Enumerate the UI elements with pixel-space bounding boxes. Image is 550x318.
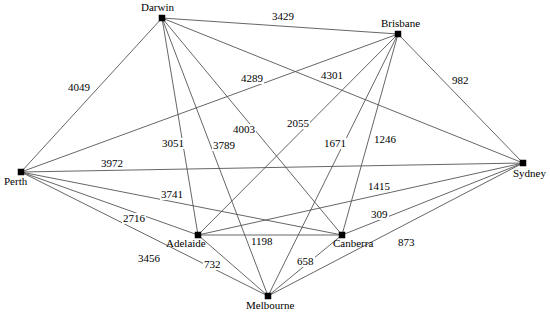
- edge-weight-label: 3972: [100, 158, 124, 169]
- graph-node-melbourne[interactable]: [265, 293, 271, 299]
- edge-weight-label: 658: [296, 256, 315, 267]
- graph-edge: [21, 172, 198, 235]
- edge-weight-label: 1246: [373, 134, 397, 145]
- nodes-layer: [18, 15, 526, 299]
- graph-node-perth[interactable]: [18, 169, 24, 175]
- graph-canvas: 3429404942894003305137899824301205516711…: [0, 0, 550, 318]
- graph-svg: [0, 0, 550, 318]
- graph-edge: [198, 34, 398, 235]
- edges-layer: [21, 18, 523, 296]
- edge-weight-label: 1198: [250, 236, 274, 247]
- edge-weight-label: 732: [203, 259, 222, 270]
- graph-edge: [162, 18, 268, 296]
- graph-edge: [21, 172, 342, 235]
- edge-weight-label: 1671: [323, 138, 347, 149]
- graph-edge: [162, 18, 198, 235]
- graph-edge: [21, 18, 162, 172]
- edge-weight-label: 309: [370, 209, 389, 220]
- graph-node-canberra[interactable]: [339, 232, 345, 238]
- edge-weight-label: 982: [451, 75, 470, 86]
- edge-weight-label: 1415: [367, 181, 391, 192]
- edge-weight-label: 3429: [271, 11, 295, 22]
- graph-node-brisbane[interactable]: [395, 31, 401, 37]
- graph-edge: [21, 172, 268, 296]
- edge-weight-label: 3051: [161, 138, 185, 149]
- edge-weight-label: 3741: [160, 189, 184, 200]
- edge-weight-label: 873: [397, 237, 416, 248]
- edge-weight-label: 2055: [286, 118, 310, 129]
- graph-node-adelaide[interactable]: [195, 232, 201, 238]
- edge-weight-label: 4301: [320, 70, 344, 81]
- graph-edge: [342, 163, 523, 235]
- graph-node-darwin[interactable]: [159, 15, 165, 21]
- edge-weight-label: 3456: [137, 253, 161, 264]
- graph-node-sydney[interactable]: [520, 160, 526, 166]
- graph-edge: [398, 34, 523, 163]
- edge-weight-label: 4049: [67, 82, 91, 93]
- edge-weight-label: 3789: [212, 140, 236, 151]
- graph-edge: [21, 163, 523, 172]
- graph-edge: [198, 163, 523, 235]
- graph-edge: [268, 163, 523, 296]
- edge-weight-label: 2716: [122, 213, 146, 224]
- edge-weight-label: 4289: [240, 73, 264, 84]
- graph-edge: [21, 34, 398, 172]
- edge-weight-label: 4003: [232, 124, 256, 135]
